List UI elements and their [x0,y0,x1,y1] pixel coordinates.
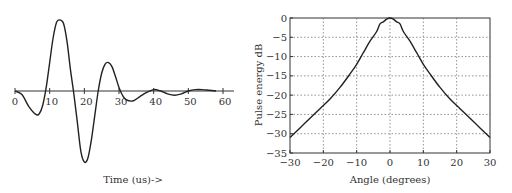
tick-label: 30 [115,96,128,107]
right-ylabel: Pulse energy dB [253,44,264,127]
right-ticks: −30−20−1001020300−5−10−15−20−25−30−35 [266,13,496,169]
left-xlabel: Time (us)-> [103,174,163,185]
y-tick-label: −25 [266,109,287,120]
tick-label: 20 [80,96,93,107]
right-xlabel: Angle (degrees) [349,174,431,185]
tick-label: 60 [219,96,232,107]
tick-label: 0 [12,96,18,107]
tick-label: 40 [149,96,162,107]
x-tick-label: −10 [346,157,367,168]
x-tick-label: −30 [279,157,300,168]
y-tick-label: −20 [266,90,287,101]
tick-label: 10 [45,96,58,107]
x-tick-label: 20 [450,157,463,168]
x-tick-label: 10 [417,157,430,168]
y-tick-label: −10 [266,51,287,62]
grid [290,18,490,153]
left-chart: 0102030405060 Time (us)-> [12,20,234,185]
y-tick-label: 0 [281,13,287,24]
y-tick-label: −15 [266,70,287,81]
tick-label: 50 [184,96,197,107]
x-tick-label: 30 [484,157,497,168]
x-tick-label: −20 [313,157,334,168]
figure: 0102030405060 Time (us)-> −30−20−1001020… [0,0,512,193]
y-tick-label: −35 [266,148,287,159]
y-tick-label: −5 [272,32,287,43]
right-chart: −30−20−1001020300−5−10−15−20−25−30−35 An… [253,13,496,186]
x-tick-label: 0 [387,157,393,168]
y-tick-label: −30 [266,128,287,139]
